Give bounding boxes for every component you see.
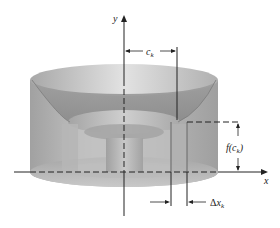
y-axis-label: y [112,13,118,24]
x-axis-label: x [263,175,269,186]
ck-label: ck [146,46,154,59]
arrow-down-icon [236,166,240,171]
arrow-left-icon [125,49,130,53]
fck-label: f(ck) [226,142,244,155]
dx-label: Δxk [210,197,225,210]
arrow-right-icon [165,200,170,204]
arrow-left-icon [188,200,193,204]
arrow-right-icon [171,49,176,53]
solid-of-revolution-diagram: x y ck f(ck) Δxk [0,0,280,228]
arrow-up-icon [236,123,240,128]
y-axis-arrow-icon [121,15,127,22]
